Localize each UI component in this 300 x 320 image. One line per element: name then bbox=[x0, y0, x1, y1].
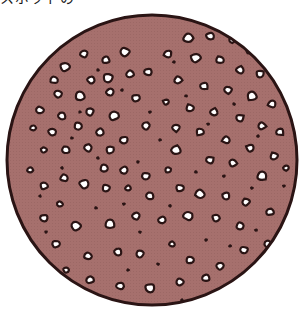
white-hole-spot bbox=[116, 283, 124, 289]
white-hole-spot bbox=[216, 56, 223, 62]
white-hole-spot bbox=[57, 201, 63, 206]
white-hole-spot bbox=[183, 34, 193, 42]
white-hole-spot bbox=[237, 222, 244, 229]
white-hole-spot bbox=[110, 112, 119, 121]
white-hole-spot bbox=[76, 92, 85, 101]
white-hole-spot bbox=[266, 209, 273, 215]
white-hole-spot bbox=[172, 125, 180, 132]
white-hole-spot bbox=[206, 157, 213, 163]
white-hole-spot bbox=[164, 51, 172, 58]
white-hole-spot bbox=[72, 222, 81, 231]
white-hole-spot bbox=[171, 145, 180, 153]
white-hole-spot bbox=[63, 268, 69, 273]
white-hole-spot bbox=[158, 217, 165, 224]
white-hole-spot bbox=[62, 147, 69, 154]
white-hole-spot bbox=[257, 172, 266, 180]
white-hole-spot bbox=[248, 92, 257, 100]
white-hole-spot bbox=[222, 136, 230, 143]
white-hole-spot bbox=[84, 144, 91, 151]
white-hole-spot bbox=[87, 77, 94, 84]
white-hole-spot bbox=[84, 253, 92, 260]
white-hole-spot bbox=[283, 166, 289, 171]
white-hole-spot bbox=[101, 165, 108, 172]
white-hole-spot bbox=[236, 66, 243, 73]
white-hole-spot bbox=[246, 145, 253, 152]
white-hole-spot bbox=[202, 275, 209, 281]
white-hole-spot bbox=[191, 54, 201, 62]
white-hole-spot bbox=[271, 153, 278, 160]
white-hole-spot bbox=[165, 167, 170, 172]
white-hole-spot bbox=[145, 284, 154, 292]
white-hole-spot bbox=[187, 104, 194, 111]
white-hole-spot bbox=[96, 128, 103, 135]
textured-disc-illustration bbox=[0, 0, 300, 320]
white-hole-spot bbox=[58, 113, 65, 120]
white-hole-spot bbox=[240, 247, 248, 253]
white-hole-spot bbox=[142, 173, 150, 179]
white-hole-spot bbox=[41, 183, 48, 190]
white-hole-spot bbox=[276, 129, 283, 135]
white-hole-spot bbox=[125, 185, 131, 190]
white-hole-spot bbox=[114, 249, 121, 256]
white-hole-spot bbox=[121, 48, 130, 56]
white-hole-spot bbox=[267, 259, 272, 264]
white-hole-spot bbox=[142, 122, 149, 129]
white-hole-spot bbox=[195, 190, 205, 198]
white-hole-spot bbox=[132, 213, 140, 220]
white-hole-spot bbox=[183, 212, 192, 220]
white-hole-spot bbox=[163, 100, 169, 105]
white-hole-spot bbox=[103, 185, 110, 191]
white-hole-spot bbox=[176, 185, 183, 191]
white-hole-spot bbox=[27, 167, 33, 172]
white-hole-spot bbox=[107, 147, 114, 154]
white-hole-spot bbox=[216, 263, 223, 270]
white-hole-spot bbox=[54, 91, 62, 98]
white-hole-spot bbox=[224, 87, 232, 94]
white-hole-spot bbox=[36, 107, 44, 114]
dark-speck bbox=[102, 298, 106, 301]
white-hole-spot bbox=[52, 241, 59, 247]
white-hole-spot bbox=[126, 70, 134, 77]
white-hole-spot bbox=[213, 215, 220, 222]
white-hole-spot bbox=[258, 122, 266, 129]
white-hole-spot bbox=[86, 109, 93, 116]
white-hole-spot bbox=[144, 69, 151, 75]
white-hole-spot bbox=[137, 251, 144, 258]
white-hole-spot bbox=[187, 257, 194, 263]
white-hole-spot bbox=[200, 83, 207, 89]
white-hole-spot bbox=[75, 123, 82, 130]
white-hole-spot bbox=[229, 160, 237, 167]
white-hole-spot bbox=[236, 115, 243, 121]
white-hole-spot bbox=[79, 180, 88, 188]
white-hole-spot bbox=[169, 241, 175, 246]
white-hole-spot bbox=[106, 220, 115, 228]
white-hole-spot bbox=[80, 51, 87, 58]
white-hole-spot bbox=[222, 193, 229, 200]
white-hole-spot bbox=[61, 63, 70, 71]
white-hole-spot bbox=[206, 33, 214, 39]
white-hole-spot bbox=[86, 276, 94, 283]
white-hole-spot bbox=[48, 129, 56, 136]
white-hole-spot bbox=[120, 137, 128, 143]
white-hole-spot bbox=[268, 101, 276, 108]
white-hole-spot bbox=[229, 284, 235, 289]
white-hole-spot bbox=[41, 147, 47, 152]
white-hole-spot bbox=[102, 57, 109, 63]
white-hole-spot bbox=[242, 199, 249, 206]
white-hole-spot bbox=[176, 279, 183, 286]
white-hole-spot bbox=[30, 125, 36, 130]
white-hole-spot bbox=[146, 193, 153, 200]
white-hole-spot bbox=[104, 74, 113, 82]
white-hole-spot bbox=[174, 76, 182, 83]
white-hole-spot bbox=[60, 174, 67, 181]
dark-speck bbox=[284, 222, 288, 225]
white-hole-spot bbox=[50, 77, 57, 83]
white-hole-spot bbox=[132, 95, 139, 101]
white-hole-spot bbox=[40, 215, 47, 221]
white-hole-spot bbox=[257, 71, 264, 78]
white-hole-spot bbox=[106, 89, 113, 96]
white-hole-spot bbox=[197, 129, 204, 135]
white-hole-spot bbox=[120, 167, 127, 174]
white-hole-spot bbox=[210, 108, 217, 115]
